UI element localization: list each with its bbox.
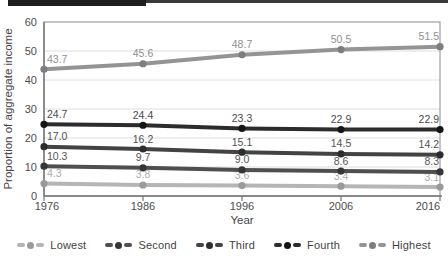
data-point-second bbox=[337, 167, 344, 174]
legend-item-lowest: Lowest bbox=[17, 239, 86, 251]
legend-label: Second bbox=[138, 239, 177, 251]
data-label-third: 15.1 bbox=[232, 136, 253, 148]
y-tick-label: 20 bbox=[25, 132, 37, 144]
data-label-highest: 43.7 bbox=[47, 53, 68, 65]
data-point-lowest bbox=[337, 183, 344, 190]
data-point-lowest bbox=[40, 180, 47, 187]
data-point-lowest bbox=[139, 181, 146, 188]
legend-dot bbox=[27, 242, 34, 249]
legend-dash bbox=[36, 243, 44, 247]
x-tick-label: 1976 bbox=[35, 200, 59, 212]
x-tick-label: 2016 bbox=[416, 200, 440, 212]
data-label-fourth: 24.7 bbox=[47, 108, 68, 120]
legend-dash bbox=[105, 243, 113, 247]
data-point-second bbox=[238, 166, 245, 173]
data-point-second bbox=[436, 168, 443, 175]
data-label-third: 16.2 bbox=[133, 133, 154, 145]
legend-dot bbox=[369, 242, 376, 249]
legend-line-dot-icon bbox=[105, 242, 132, 249]
y-tick-label: 30 bbox=[25, 103, 37, 115]
data-point-highest bbox=[436, 43, 443, 50]
legend-dot bbox=[206, 242, 213, 249]
data-point-third bbox=[139, 145, 146, 152]
legend-line-dot-icon bbox=[274, 242, 301, 249]
legend-label: Third bbox=[229, 239, 255, 251]
data-point-third bbox=[238, 149, 245, 156]
data-point-highest bbox=[337, 46, 344, 53]
data-label-third: 14.2 bbox=[419, 138, 440, 150]
y-tick-label: 40 bbox=[25, 74, 37, 86]
legend-line-dot-icon bbox=[359, 242, 386, 249]
data-label-fourth: 22.9 bbox=[419, 113, 440, 125]
data-point-fourth bbox=[40, 121, 47, 128]
data-label-fourth: 23.3 bbox=[232, 112, 253, 124]
data-point-fourth bbox=[139, 122, 146, 129]
y-axis-title: Proportion of aggregate income bbox=[2, 28, 14, 189]
y-tick-label: 50 bbox=[25, 45, 37, 57]
legend-dash bbox=[293, 243, 301, 247]
data-point-second bbox=[139, 164, 146, 171]
data-point-highest bbox=[40, 66, 47, 73]
legend-item-second: Second bbox=[105, 239, 177, 251]
data-point-second bbox=[40, 163, 47, 170]
legend-dash bbox=[274, 243, 282, 247]
x-tick-label: 1986 bbox=[131, 200, 155, 212]
y-tick-label: 10 bbox=[25, 161, 37, 173]
legend-dash bbox=[196, 243, 204, 247]
legend-dash bbox=[17, 243, 25, 247]
data-point-fourth bbox=[238, 125, 245, 132]
data-label-third: 17.0 bbox=[47, 130, 68, 142]
legend-label: Lowest bbox=[50, 239, 86, 251]
x-axis-title: Year bbox=[230, 214, 253, 226]
data-label-third: 14.5 bbox=[331, 137, 352, 149]
data-point-fourth bbox=[436, 126, 443, 133]
legend-dash bbox=[124, 243, 132, 247]
legend-dash bbox=[378, 243, 386, 247]
data-label-highest: 50.5 bbox=[331, 33, 352, 45]
data-label-highest: 51.5 bbox=[419, 30, 440, 42]
legend-item-fourth: Fourth bbox=[274, 239, 340, 251]
legend-label: Fourth bbox=[307, 239, 340, 251]
data-point-highest bbox=[238, 51, 245, 58]
data-label-fourth: 24.4 bbox=[133, 109, 154, 121]
legend-line-dot-icon bbox=[196, 242, 223, 249]
x-tick-label: 2006 bbox=[329, 200, 353, 212]
legend-line-dot-icon bbox=[17, 242, 44, 249]
data-label-second: 9.7 bbox=[136, 151, 151, 163]
legend-dot bbox=[284, 242, 291, 249]
data-label-highest: 45.6 bbox=[133, 47, 154, 59]
data-label-lowest: 4.3 bbox=[47, 167, 62, 179]
legend-item-third: Third bbox=[196, 239, 255, 251]
legend-label: Highest bbox=[392, 239, 431, 251]
data-point-third bbox=[337, 150, 344, 157]
x-tick-label: 1996 bbox=[230, 200, 254, 212]
data-label-second: 10.3 bbox=[47, 150, 68, 162]
legend-item-highest: Highest bbox=[359, 239, 431, 251]
legend-dot bbox=[115, 242, 122, 249]
data-point-lowest bbox=[238, 182, 245, 189]
data-point-third bbox=[436, 151, 443, 158]
data-point-lowest bbox=[436, 183, 443, 190]
data-point-third bbox=[40, 143, 47, 150]
chart-legend: LowestSecondThirdFourthHighest bbox=[0, 235, 448, 255]
y-tick-label: 60 bbox=[25, 16, 37, 28]
figure-income-quintiles: 010203040506019761986199620062016YearPro… bbox=[0, 0, 448, 259]
data-label-second: 8.3 bbox=[424, 155, 439, 167]
data-point-fourth bbox=[337, 126, 344, 133]
income-line-chart: 010203040506019761986199620062016YearPro… bbox=[0, 0, 448, 236]
legend-dash bbox=[359, 243, 367, 247]
data-label-fourth: 22.9 bbox=[331, 113, 352, 125]
legend-dash bbox=[215, 243, 223, 247]
data-point-highest bbox=[139, 60, 146, 67]
data-label-highest: 48.7 bbox=[232, 38, 253, 50]
